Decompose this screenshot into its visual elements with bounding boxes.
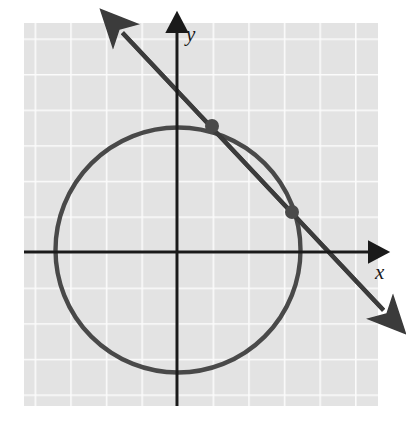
intersection-point-1 [205,119,219,133]
grid-background [24,23,378,406]
figure-container: y x [0,0,406,426]
plot-area [24,23,378,406]
y-axis-label: y [184,22,196,46]
intersection-point-2 [285,205,299,219]
x-axis-label: x [374,260,385,284]
coordinate-plane-graphic: y x [0,0,406,426]
